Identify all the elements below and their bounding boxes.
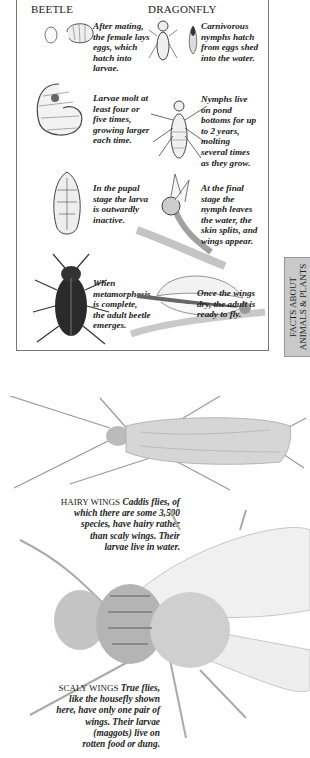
beetle-pupa-illustration — [47, 170, 87, 240]
scaly-wings-caption: SCALY WINGS True flies, like the housefl… — [56, 683, 160, 750]
beetle-larva-illustration — [29, 78, 89, 144]
beetle-larva-caption: Larvae molt at least four or five times,… — [93, 93, 149, 146]
section-side-tab: FACTS ABOUT ANIMALS & PLANTS — [284, 257, 310, 357]
beetle-egg-caption: After mating, the female lays eggs, whic… — [93, 21, 150, 74]
dragonfly-emerging-caption: At the final stage the nymph leaves the … — [201, 183, 257, 247]
dragonfly-nymph-caption: Nymphs live on pond bottoms for up to 2 … — [201, 94, 256, 168]
dragonfly-egg-illustration — [186, 24, 200, 56]
caddis-fly-illustration — [0, 396, 310, 496]
beetle-egg-illustration — [41, 24, 61, 46]
dragonfly-egg-caption: Carnivorous nymphs hatch from eggs shed … — [201, 21, 258, 63]
dragonfly-heading: DRAGONFLY — [148, 3, 217, 15]
life-cycle-panel: BEETLE DRAGONFLY After mating, the femal… — [16, 0, 269, 351]
dragonfly-nymph-small-illustration — [147, 18, 179, 68]
beetle-heading: BEETLE — [31, 3, 73, 15]
adult-dragonfly-caption: Once the wings dry, the adult is ready t… — [197, 288, 255, 320]
side-tab-label: FACTS ABOUT ANIMALS & PLANTS — [289, 264, 308, 351]
